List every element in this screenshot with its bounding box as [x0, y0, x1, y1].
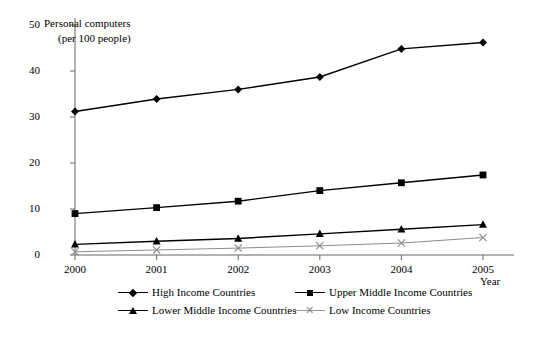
legend-item-upper-middle-income[interactable]: Upper Middle Income Countries	[295, 286, 472, 298]
y-axis-tick: 0	[14, 248, 40, 260]
chart-title-line-1: Personal computers	[44, 17, 130, 29]
x-marker-icon: ✕	[295, 305, 325, 316]
legend-label: Low Income Countries	[329, 304, 430, 316]
diamond-marker-icon	[118, 287, 148, 298]
x-axis-tick: 2005	[453, 263, 513, 275]
chart-legend: High Income Countries Upper Middle Incom…	[0, 286, 541, 322]
x-axis-tick: 2001	[127, 263, 187, 275]
y-axis-tick: 40	[14, 64, 40, 76]
legend-item-low-income[interactable]: ✕ Low Income Countries	[295, 304, 430, 316]
y-axis-tick: 30	[14, 110, 40, 122]
legend-row-2: Lower Middle Income Countries ✕ Low Inco…	[0, 304, 541, 322]
x-axis-tick: 2004	[371, 263, 431, 275]
x-axis-tick: 2003	[290, 263, 350, 275]
y-axis-tick: 50	[14, 18, 40, 30]
legend-item-lower-middle-income[interactable]: Lower Middle Income Countries	[118, 304, 297, 316]
y-axis-tick: 10	[14, 202, 40, 214]
legend-item-high-income[interactable]: High Income Countries	[118, 286, 255, 298]
y-axis-tick: 20	[14, 156, 40, 168]
x-axis-tick: 2000	[45, 263, 105, 275]
chart-title-line-2: (per 100 people)	[58, 32, 131, 44]
chart-container: Personal computers (per 100 people) Year…	[0, 0, 541, 339]
legend-label: High Income Countries	[152, 286, 255, 298]
x-axis-tick: 2002	[208, 263, 268, 275]
legend-row-1: High Income Countries Upper Middle Incom…	[0, 286, 541, 304]
triangle-marker-icon	[118, 305, 148, 316]
legend-label: Upper Middle Income Countries	[329, 286, 472, 298]
legend-label: Lower Middle Income Countries	[152, 304, 297, 316]
square-marker-icon	[295, 287, 325, 298]
